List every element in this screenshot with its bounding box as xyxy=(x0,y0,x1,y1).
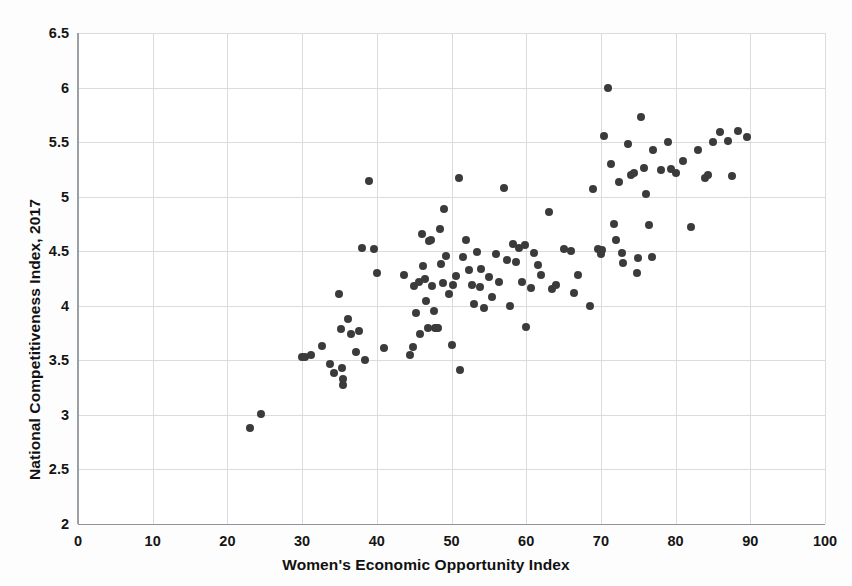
scatter-point xyxy=(522,323,530,331)
scatter-point xyxy=(545,208,553,216)
y-tick-label: 2 xyxy=(61,516,69,532)
x-tick-label: 70 xyxy=(593,533,609,549)
scatter-point xyxy=(427,236,435,244)
scatter-point xyxy=(436,225,444,233)
scatter-point xyxy=(406,351,414,359)
x-tick-label: 10 xyxy=(145,533,161,549)
y-tick-label: 5.5 xyxy=(49,134,69,150)
y-tick-label: 4.5 xyxy=(49,243,69,259)
gridline-vertical xyxy=(750,33,751,524)
scatter-point xyxy=(694,146,702,154)
gridline-vertical xyxy=(526,33,527,524)
y-tick-label: 2.5 xyxy=(49,461,69,477)
scatter-point xyxy=(648,253,656,261)
scatter-point xyxy=(430,307,438,315)
scatter-point xyxy=(500,184,508,192)
gridline-vertical xyxy=(153,33,154,524)
scatter-point xyxy=(600,132,608,140)
scatter-point xyxy=(434,324,442,332)
scatter-point xyxy=(440,205,448,213)
y-tick-label: 4 xyxy=(61,298,69,314)
scatter-point xyxy=(630,169,638,177)
scatter-point xyxy=(470,300,478,308)
scatter-point xyxy=(448,341,456,349)
x-axis-line xyxy=(78,524,825,526)
scatter-point xyxy=(358,244,366,252)
gridline-vertical xyxy=(302,33,303,524)
y-tick-label: 3 xyxy=(61,407,69,423)
scatter-point xyxy=(257,410,265,418)
scatter-point xyxy=(687,223,695,231)
chart-figure: WOMEN'S ECONOMIC OPPORTUNITY AND COMPETI… xyxy=(0,0,852,586)
x-tick-label: 30 xyxy=(294,533,310,549)
scatter-point xyxy=(442,252,450,260)
x-tick-label: 50 xyxy=(443,533,459,549)
scatter-point xyxy=(586,302,594,310)
scatter-point xyxy=(373,269,381,277)
scatter-point xyxy=(679,157,687,165)
gridline-vertical xyxy=(825,33,826,524)
y-tick-label: 5 xyxy=(61,189,69,205)
scatter-point xyxy=(370,245,378,253)
scatter-point xyxy=(512,258,520,266)
y-tick-label: 6 xyxy=(61,80,69,96)
scatter-point xyxy=(246,424,254,432)
scatter-point xyxy=(445,290,453,298)
gridline-vertical xyxy=(377,33,378,524)
scatter-point xyxy=(355,327,363,335)
scatter-point xyxy=(449,281,457,289)
plot-area: 22.533.544.555.566.5 0102030405060708090… xyxy=(78,33,825,524)
x-tick-label: 20 xyxy=(219,533,235,549)
scatter-point xyxy=(633,269,641,277)
scatter-point xyxy=(724,137,732,145)
gridline-vertical xyxy=(227,33,228,524)
scatter-point xyxy=(604,84,612,92)
x-tick-label: 100 xyxy=(813,533,837,549)
scatter-point xyxy=(337,325,345,333)
x-tick-label: 0 xyxy=(74,533,82,549)
gridline-vertical xyxy=(676,33,677,524)
y-tick-label: 6.5 xyxy=(49,25,69,41)
scatter-point xyxy=(645,221,653,229)
scatter-point xyxy=(521,241,529,249)
y-axis-line xyxy=(77,33,79,524)
scatter-point xyxy=(418,230,426,238)
scatter-point xyxy=(439,279,447,287)
x-tick-label: 90 xyxy=(742,533,758,549)
gridline-vertical xyxy=(601,33,602,524)
scatter-point xyxy=(518,278,526,286)
scatter-point xyxy=(634,254,642,262)
scatter-point xyxy=(352,348,360,356)
scatter-point xyxy=(570,289,578,297)
x-tick-label: 80 xyxy=(668,533,684,549)
x-tick-label: 60 xyxy=(518,533,534,549)
scatter-point xyxy=(409,343,417,351)
scatter-point xyxy=(527,284,535,292)
scatter-point xyxy=(672,169,680,177)
scatter-point xyxy=(743,133,751,141)
y-axis-title: National Competitiveness Index, 2017 xyxy=(26,199,44,480)
x-tick-label: 40 xyxy=(369,533,385,549)
scatter-point xyxy=(421,275,429,283)
scatter-point xyxy=(400,271,408,279)
scatter-point xyxy=(503,256,511,264)
x-axis-title: Women's Economic Opportunity Index xyxy=(0,556,852,574)
scatter-point xyxy=(709,138,717,146)
scatter-point xyxy=(339,375,347,383)
scatter-point xyxy=(318,342,326,350)
scatter-point xyxy=(649,146,657,154)
y-tick-label: 3.5 xyxy=(49,352,69,368)
scatter-point xyxy=(307,351,315,359)
scatter-point xyxy=(488,293,496,301)
scatter-point xyxy=(506,302,514,310)
